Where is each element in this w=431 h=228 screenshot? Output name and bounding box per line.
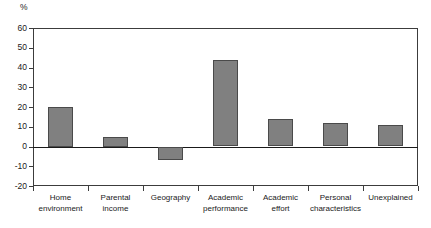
y-axis-tick-label: 60 <box>18 23 27 33</box>
x-axis-tick-mark <box>33 186 34 191</box>
y-axis-tick-label: 20 <box>18 102 27 112</box>
bar <box>268 119 294 147</box>
bar-chart: % 6050403020100-10-20 Home environmentPa… <box>0 0 431 228</box>
x-axis-category-label: Unexplained <box>363 193 418 204</box>
y-axis-tick-label: 0 <box>22 141 27 151</box>
zero-baseline <box>33 147 418 148</box>
y-axis-tick-label: 10 <box>18 121 27 131</box>
x-axis-category-label: Home environment <box>33 193 88 214</box>
bar <box>378 125 404 147</box>
bar <box>48 107 74 147</box>
x-axis-tick-mark <box>198 186 199 191</box>
bar <box>213 60 239 147</box>
y-axis-tick-label: 30 <box>18 82 27 92</box>
x-axis-tick-mark <box>253 186 254 191</box>
x-axis-category-label: Parental income <box>88 193 143 214</box>
y-axis-tick-label: -10 <box>15 161 27 171</box>
y-axis-unit-label: % <box>20 2 28 12</box>
bar <box>158 147 184 161</box>
x-axis-category-label: Geography <box>143 193 198 204</box>
x-axis-tick-mark <box>363 186 364 191</box>
bar <box>103 137 129 147</box>
y-axis-tick-label: -20 <box>15 181 27 191</box>
x-axis-tick-mark <box>418 186 419 191</box>
bar <box>323 123 349 147</box>
x-axis-tick-mark <box>143 186 144 191</box>
y-axis-tick-label: 40 <box>18 62 27 72</box>
x-axis-tick-mark <box>308 186 309 191</box>
x-axis-tick-mark <box>88 186 89 191</box>
x-axis-category-label: Academic performance <box>198 193 253 214</box>
x-axis-category-label: Personal characteristics <box>308 193 363 214</box>
y-axis-tick-label: 50 <box>18 42 27 52</box>
x-axis-category-label: Academic effort <box>253 193 308 214</box>
